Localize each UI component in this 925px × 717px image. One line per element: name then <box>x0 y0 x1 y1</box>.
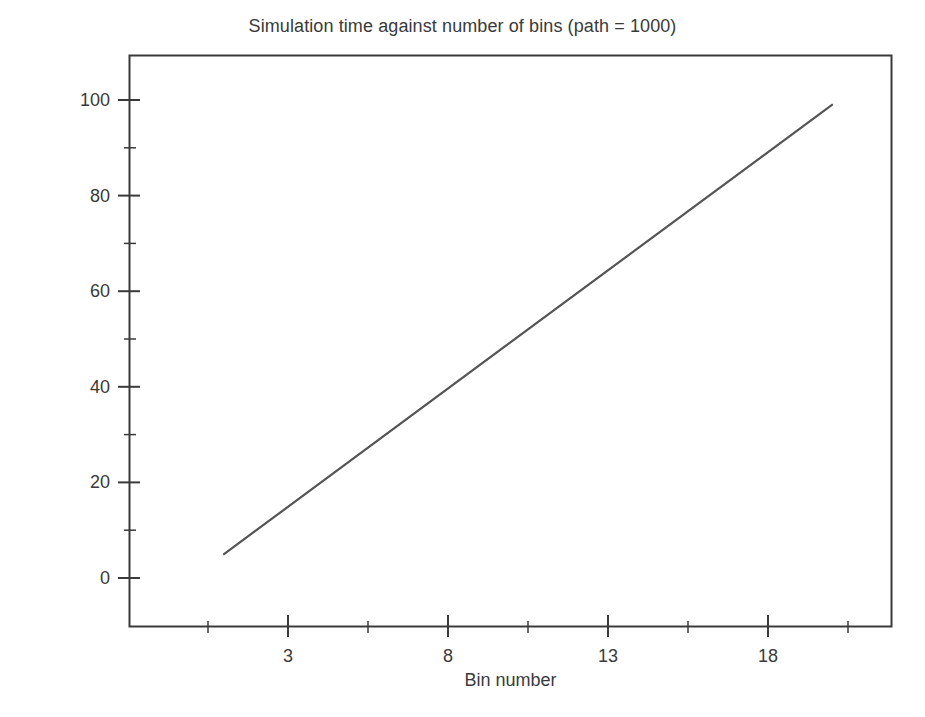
line-chart-plot: 0 20 40 60 80 100 3 8 13 18 <box>0 0 925 717</box>
y-axis-tick-labels: 0 20 40 60 80 100 <box>80 90 110 588</box>
y-tick-label: 40 <box>90 377 110 397</box>
x-tick-label: 3 <box>283 646 293 666</box>
y-tick-label: 20 <box>90 472 110 492</box>
x-tick-label: 8 <box>443 646 453 666</box>
y-tick-label: 100 <box>80 90 110 110</box>
x-axis-tick-labels: 3 8 13 18 <box>283 646 778 666</box>
y-tick-label: 80 <box>90 186 110 206</box>
y-tick-label: 60 <box>90 281 110 301</box>
x-tick-label: 13 <box>598 646 618 666</box>
x-axis-title: Bin number <box>129 670 892 691</box>
plot-frame <box>130 56 892 627</box>
x-tick-label: 18 <box>758 646 778 666</box>
y-tick-label: 0 <box>100 568 110 588</box>
chart-page: Simulation time against number of bins (… <box>0 0 925 717</box>
